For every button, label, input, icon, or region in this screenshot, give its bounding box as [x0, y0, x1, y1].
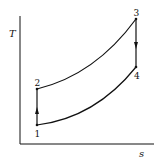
x-axis-label: s	[139, 148, 144, 159]
y-axis-label: T	[9, 28, 17, 39]
ts-diagram: T s 1 2 3 4	[0, 0, 162, 165]
state-point-2	[36, 88, 39, 91]
process-4-1	[37, 67, 136, 125]
point-label-4: 4	[134, 71, 140, 81]
state-point-3	[135, 18, 138, 21]
state-point-4	[135, 66, 138, 69]
arrow-down-icon	[134, 42, 138, 49]
arrow-up-icon	[35, 107, 39, 114]
state-point-1	[36, 124, 39, 127]
point-label-2: 2	[35, 78, 41, 88]
point-label-1: 1	[35, 129, 41, 139]
point-label-3: 3	[134, 8, 140, 18]
process-2-3	[37, 19, 136, 89]
